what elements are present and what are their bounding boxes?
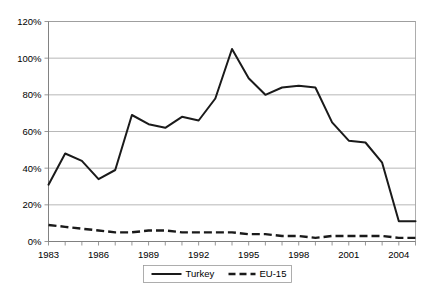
x-tick-label: 1998 <box>288 249 309 260</box>
y-tick-label: 20% <box>22 199 42 210</box>
y-tick-label: 60% <box>22 126 42 137</box>
chart-canvas: 0%20%40%60%80%100%120% 19831986198919921… <box>0 0 435 292</box>
x-tick-label: 1986 <box>88 249 109 260</box>
data-series-layer <box>49 49 416 238</box>
x-tick-label: 2001 <box>338 249 359 260</box>
series-line-turkey <box>49 49 416 221</box>
series-line-eu-15 <box>49 225 416 238</box>
legend-label-turkey: Turkey <box>186 268 215 279</box>
x-axis-ticks <box>49 242 416 246</box>
x-axis-tick-labels: 19831986198919921995199820012004 <box>38 249 409 260</box>
chart-legend: TurkeyEU-15 <box>144 266 292 283</box>
y-axis-tick-labels: 0%20%40%60%80%100%120% <box>17 16 42 247</box>
legend-label-eu-15: EU-15 <box>260 268 287 279</box>
x-tick-label: 1992 <box>188 249 209 260</box>
x-tick-label: 2004 <box>388 249 409 260</box>
y-axis-ticks <box>45 22 49 242</box>
x-tick-label: 1995 <box>238 249 259 260</box>
gridlines <box>49 22 416 242</box>
y-tick-label: 80% <box>22 89 42 100</box>
y-tick-label: 120% <box>17 16 42 27</box>
y-tick-label: 40% <box>22 163 42 174</box>
x-tick-label: 1983 <box>38 249 59 260</box>
x-tick-label: 1989 <box>138 249 159 260</box>
y-tick-label: 100% <box>17 53 42 64</box>
y-tick-label: 0% <box>28 236 42 247</box>
line-chart: 0%20%40%60%80%100%120% 19831986198919921… <box>0 0 435 292</box>
